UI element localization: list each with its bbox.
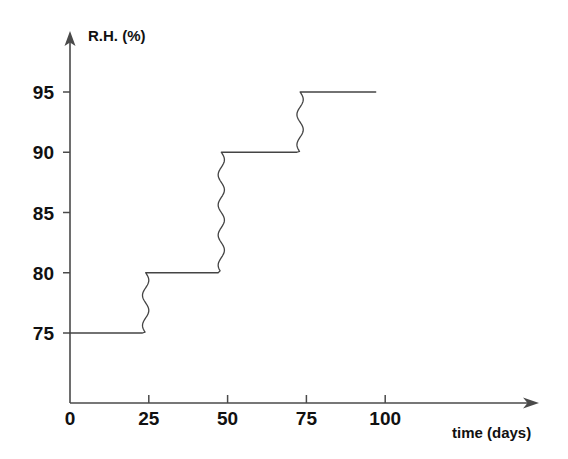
relative-humidity-step-chart: 7580859095 0255075100 R.H. (%) time (day… [0, 0, 568, 459]
y-axis-ticks [63, 92, 70, 333]
x-axis-ticks [149, 395, 385, 403]
x-axis-tick-label: 25 [138, 408, 160, 429]
x-axis-tick-label: 0 [65, 408, 76, 429]
y-axis-tick-label: 85 [33, 203, 55, 224]
y-axis-title: R.H. (%) [88, 27, 146, 44]
x-axis-group [70, 398, 539, 409]
chart-container: 7580859095 0255075100 R.H. (%) time (day… [0, 0, 568, 459]
y-axis-tick-label: 80 [33, 263, 54, 284]
y-axis-tick-labels: 7580859095 [33, 82, 55, 344]
x-axis-tick-label: 100 [369, 408, 401, 429]
y-axis-group [65, 31, 76, 403]
x-axis-tick-label: 50 [217, 408, 238, 429]
y-axis-tick-label: 90 [33, 142, 54, 163]
x-axis-tick-labels: 0255075100 [65, 408, 401, 429]
x-axis-tick-label: 75 [296, 408, 318, 429]
x-axis-title: time (days) [452, 424, 531, 441]
step-data-line [70, 92, 376, 333]
y-axis-tick-label: 95 [33, 82, 55, 103]
y-axis-tick-label: 75 [33, 323, 55, 344]
